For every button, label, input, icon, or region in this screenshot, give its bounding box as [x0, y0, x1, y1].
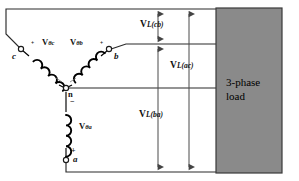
load-block-caption: 3-phase load — [226, 76, 260, 104]
line-voltage-label-ac: VL(ac) — [170, 61, 194, 71]
terminal-label-b: b — [114, 52, 119, 61]
line-voltage-ac-sub: L(ac) — [177, 61, 194, 70]
phase-c-voltage-label: Vθc — [42, 38, 54, 47]
load-caption-line-1: 3-phase — [226, 76, 260, 90]
coil-lead-group — [22, 50, 108, 158]
line-voltage-ba-sub: L(ba) — [146, 110, 163, 119]
line-voltage-ac-main: V — [170, 60, 177, 70]
polarity-mark-neutral-minus: − — [70, 98, 75, 106]
phase-b-voltage-sub: θb — [76, 39, 83, 46]
polarity-mark-c: + — [31, 41, 34, 47]
line-voltage-label-cb: VL(cb) — [140, 20, 164, 30]
polarity-mark-b: + — [100, 41, 103, 47]
terminal-b-node — [106, 46, 111, 51]
polarity-mark-a-plus: + — [71, 147, 76, 155]
line-voltage-cb-main: V — [140, 19, 147, 29]
phase-a-voltage-label: Vθa — [79, 122, 92, 131]
wire-group — [6, 9, 216, 172]
line-voltage-cb-sub: L(cb) — [147, 20, 164, 29]
terminal-c-node — [18, 46, 23, 51]
terminal-a-node — [63, 157, 68, 162]
dimension-arrow-group — [158, 14, 189, 167]
coil-phase-b — [72, 50, 105, 83]
line-voltage-ba-main: V — [139, 109, 146, 119]
wire-phase-a — [66, 160, 216, 172]
phase-b-voltage-label: Vθb — [70, 38, 83, 47]
phase-a-voltage-sub: θa — [85, 123, 92, 130]
terminal-label-a: a — [73, 155, 78, 164]
wire-phase-b — [108, 44, 216, 50]
circuit-diagram-canvas: Vθc Vθb Vθa c b a n + + − + VL(cb) VL(ac… — [0, 0, 299, 181]
terminal-label-c: c — [12, 52, 16, 61]
line-voltage-label-ba: VL(ba) — [139, 110, 163, 120]
load-caption-line-2: load — [226, 90, 260, 104]
terminal-group — [18, 46, 111, 162]
phase-c-voltage-sub: θc — [48, 39, 54, 46]
